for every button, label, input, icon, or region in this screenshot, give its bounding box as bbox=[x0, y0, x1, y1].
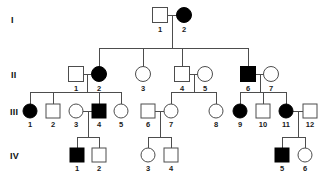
individual-III-4-square-affected bbox=[92, 104, 106, 118]
individual-number-IV-6: 6 bbox=[303, 165, 307, 173]
individual-IV-3-circle-unaffected bbox=[141, 148, 155, 162]
individual-number-IV-1: 1 bbox=[75, 165, 79, 173]
individual-IV-5-square-affected bbox=[275, 148, 289, 162]
generation-label-I: I bbox=[11, 16, 14, 25]
individual-III-9-circle-affected bbox=[233, 104, 247, 118]
individual-II-6-square-affected bbox=[241, 67, 256, 82]
individual-III-8-circle-unaffected bbox=[209, 104, 223, 118]
individual-III-3-circle-unaffected bbox=[69, 104, 83, 118]
individual-I-1-square-unaffected bbox=[153, 8, 168, 23]
individual-II-1-square-unaffected bbox=[69, 67, 84, 82]
individual-number-IV-2: 2 bbox=[97, 165, 101, 173]
individual-II-3-circle-unaffected bbox=[136, 67, 151, 82]
individual-III-5-circle-unaffected bbox=[114, 104, 128, 118]
individual-number-III-9: 9 bbox=[238, 121, 242, 129]
individual-number-II-3: 3 bbox=[141, 85, 145, 93]
individual-II-4-square-unaffected bbox=[175, 67, 190, 82]
individual-number-I-2: 2 bbox=[182, 26, 186, 34]
individual-number-III-11: 11 bbox=[282, 121, 290, 129]
pedigree-chart: IIIIIIIV 121234567123456789101112123456 bbox=[0, 0, 328, 188]
individual-II-5-circle-unaffected bbox=[198, 67, 213, 82]
individual-II-2-circle-affected bbox=[92, 67, 107, 82]
individual-number-III-12: 12 bbox=[306, 121, 314, 129]
individual-I-2-circle-affected bbox=[177, 8, 192, 23]
individual-number-III-4: 4 bbox=[97, 121, 101, 129]
individual-III-12-square-unaffected bbox=[303, 104, 317, 118]
individual-III-11-circle-affected bbox=[279, 104, 293, 118]
individual-number-IV-4: 4 bbox=[169, 165, 173, 173]
individual-number-III-10: 10 bbox=[259, 121, 267, 129]
individual-number-IV-3: 3 bbox=[146, 165, 150, 173]
individual-number-III-1: 1 bbox=[28, 121, 32, 129]
individual-number-II-7: 7 bbox=[269, 85, 273, 93]
individual-number-IV-5: 5 bbox=[280, 165, 284, 173]
individual-IV-4-square-unaffected bbox=[164, 148, 178, 162]
individual-III-6-square-unaffected bbox=[141, 104, 155, 118]
individual-IV-1-square-affected bbox=[70, 148, 84, 162]
individual-number-II-5: 5 bbox=[203, 85, 207, 93]
pedigree-canvas bbox=[0, 0, 328, 188]
individual-number-II-1: 1 bbox=[74, 85, 78, 93]
individual-III-7-circle-unaffected bbox=[164, 104, 178, 118]
individual-number-III-3: 3 bbox=[74, 121, 78, 129]
individual-IV-2-square-unaffected bbox=[92, 148, 106, 162]
individual-III-10-square-unaffected bbox=[256, 104, 270, 118]
individual-IV-6-circle-unaffected bbox=[298, 148, 312, 162]
generation-label-III: III bbox=[10, 108, 18, 117]
individual-number-III-6: 6 bbox=[146, 121, 150, 129]
individual-number-II-2: 2 bbox=[97, 85, 101, 93]
individual-number-II-6: 6 bbox=[246, 85, 250, 93]
individual-number-I-1: 1 bbox=[158, 26, 162, 34]
individual-II-7-circle-unaffected bbox=[264, 67, 279, 82]
generation-label-IV: IV bbox=[10, 152, 19, 161]
individual-number-II-4: 4 bbox=[180, 85, 184, 93]
individual-number-III-2: 2 bbox=[51, 121, 55, 129]
generation-label-II: II bbox=[11, 71, 17, 80]
individual-number-III-5: 5 bbox=[119, 121, 123, 129]
individual-number-III-7: 7 bbox=[169, 121, 173, 129]
individual-number-III-8: 8 bbox=[214, 121, 218, 129]
individual-III-1-circle-affected bbox=[23, 104, 37, 118]
individual-III-2-square-unaffected bbox=[46, 104, 60, 118]
